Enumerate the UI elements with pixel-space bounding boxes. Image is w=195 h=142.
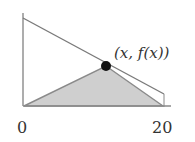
x-end-label: 20 [152,118,172,137]
shaded-triangle [24,66,163,106]
origin-label: 0 [17,118,27,137]
point-label: (x, f(x)) [114,44,170,62]
point-dot [101,61,111,71]
triangle-diagram: (x, f(x)) 0 20 [0,0,195,142]
